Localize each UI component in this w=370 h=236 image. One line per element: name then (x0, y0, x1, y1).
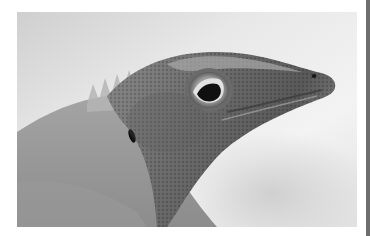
lizard-illustration (17, 12, 357, 227)
nostril (312, 74, 317, 78)
right-edge-bar (366, 0, 370, 236)
lizard-photo (17, 12, 357, 227)
